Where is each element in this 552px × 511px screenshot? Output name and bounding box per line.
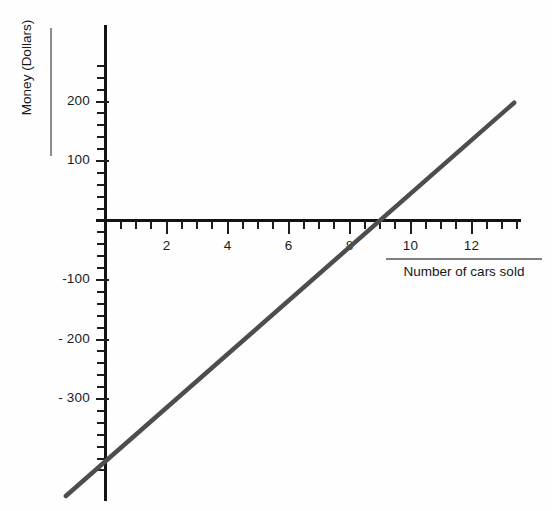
x-axis-title-rule — [386, 258, 542, 260]
data-series-layer — [0, 0, 552, 511]
series-line-profit — [66, 103, 514, 496]
x-axis-title-group: Number of cars sold — [386, 258, 546, 292]
x-axis-title: Number of cars sold — [386, 264, 542, 279]
chart-canvas: Money (Dollars) 24681012- 300- 200-10010… — [0, 0, 552, 511]
